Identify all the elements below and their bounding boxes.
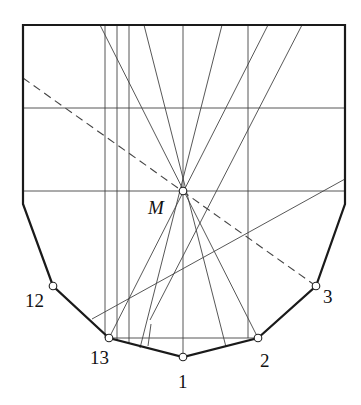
label-m: M: [148, 198, 164, 217]
label-1: 1: [178, 372, 188, 391]
label-13: 13: [90, 348, 109, 367]
point-3: [312, 282, 320, 290]
point-2: [254, 334, 262, 342]
point-m: [179, 187, 187, 195]
dashed-line: [23, 78, 316, 286]
short-tick-line: [148, 324, 151, 346]
label-2: 2: [260, 351, 270, 370]
label-3: 3: [323, 287, 333, 306]
label-12: 12: [25, 291, 44, 310]
oblique-line: [92, 179, 345, 319]
point-13: [105, 334, 113, 342]
geometry-diagram: [0, 0, 361, 405]
marked-points: [49, 187, 320, 361]
point-12: [49, 282, 57, 290]
rays-through-m: [100, 25, 302, 348]
point-1: [179, 353, 187, 361]
